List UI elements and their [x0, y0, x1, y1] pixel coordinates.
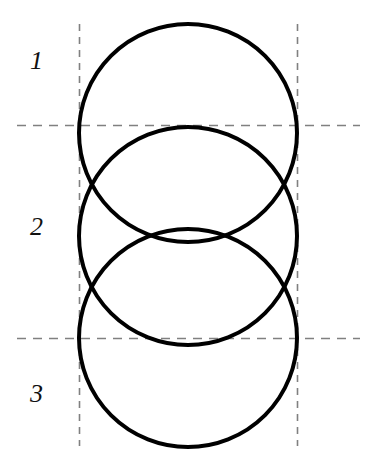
region-label-2: 2: [30, 214, 43, 240]
region-label-3: 3: [30, 381, 43, 407]
circle-1: [79, 24, 297, 242]
circle-2: [79, 127, 297, 345]
region-label-1: 1: [30, 48, 43, 74]
dashed-guide-lines: [17, 24, 360, 446]
circle-group: [79, 24, 297, 447]
figure-canvas: 1 2 3: [0, 0, 372, 462]
circles-diagram-svg: [0, 0, 372, 462]
